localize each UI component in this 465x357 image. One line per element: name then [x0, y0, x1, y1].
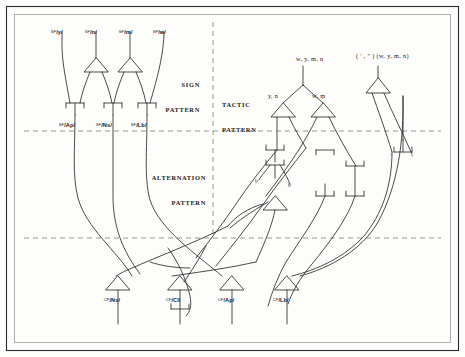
label-sf-ns-body: /Ns/ [101, 122, 112, 128]
and-bracket-mid-c [346, 161, 364, 166]
label-cf-ap: CF/Ap/ [211, 292, 234, 309]
cross-fibre-4 [216, 148, 306, 266]
section-sign-line1: SIGN [152, 81, 200, 89]
cf-cross-2 [184, 246, 206, 282]
label-cf-ns-body: /Ns/ [109, 297, 120, 303]
label-mark-prime: ' [390, 154, 391, 159]
label-sf-lb: SF/Lb/ [124, 117, 147, 134]
cross-fibre-1 [268, 196, 325, 306]
label-sf-y: SF/y/ [44, 24, 63, 41]
and-bracket-sf-ap [66, 103, 84, 115]
or-triangle-m [118, 58, 142, 72]
label-tactic-yn: y, n [268, 93, 278, 99]
label-cf-lb-body: /Lb/ [278, 297, 288, 303]
label-sf-n: SF/n/ [78, 24, 97, 41]
and-bracket-upper-b [316, 150, 334, 155]
or-triangle-yn [271, 103, 295, 117]
right-leg-prime [372, 93, 392, 152]
and-bracket-right [394, 140, 412, 152]
tactic-fan-left [283, 85, 303, 103]
label-tactic-wymn: w, y, m, n [296, 56, 323, 62]
right-leg-dprime [384, 93, 412, 154]
leg-m-right [136, 72, 146, 103]
long-fibre-to-lb [300, 96, 403, 276]
cf-triangle-ap [220, 276, 244, 290]
label-sf-ns: SF/Ns/ [89, 117, 112, 134]
or-triangle-right [366, 78, 390, 93]
or-triangle-wm [311, 103, 335, 117]
and-bracket-mid-b [346, 166, 364, 196]
branch-b-left [259, 165, 270, 180]
label-sf-ap-body: /Ap/ [64, 122, 75, 128]
leg-wm-right [329, 117, 356, 166]
and-bracket-sf-ns [104, 103, 122, 115]
label-sf-m: SF/m/ [112, 24, 133, 41]
label-cf-ns: CF/Ns/ [97, 292, 120, 309]
section-tactic-line1: TACTIC [222, 101, 272, 109]
label-sf-ap: SF/Ap/ [52, 117, 75, 134]
section-sign-pattern: SIGN PATTERN [152, 64, 200, 132]
label-sf-lb-body: /Lb/ [136, 122, 146, 128]
cf-triangle-cl [168, 276, 192, 290]
and-bracket-mid-a [316, 184, 334, 196]
label-mark-b-left: b [255, 179, 258, 184]
section-tactic-line2: PATTERN [222, 126, 272, 134]
cross-fibre-2 [288, 196, 355, 304]
label-sf-m-body: /m/ [124, 29, 132, 35]
leg-wm-left [300, 117, 317, 148]
cf-cross-3 [150, 262, 190, 268]
long-fibre-to-ap [292, 152, 392, 276]
cf-triangle-ns [106, 276, 130, 290]
cross-fibre-5 [266, 148, 300, 196]
label-mark-double-prime: " [411, 155, 413, 160]
label-mark-b-right: b [288, 183, 291, 188]
stem-lower-left-down [256, 210, 275, 262]
leg-yn-right [289, 117, 306, 148]
diagram-canvas: SIGN PATTERN ALTERNATION PATTERN TACTIC … [0, 0, 465, 357]
label-cf-ap-body: /Ap/ [223, 297, 234, 303]
or-triangle-n [84, 58, 108, 72]
label-tactic-wm: w, m [312, 93, 325, 99]
stem-sf-y [62, 32, 70, 103]
label-tactic-primes: ( ' , " ) (w, y, m, n) [356, 53, 409, 59]
label-cf-cl: CF/Cl/ [159, 292, 181, 309]
leg-n-right [102, 72, 112, 103]
label-sf-w-body: /w/ [158, 29, 166, 35]
label-sf-n-body: /n/ [90, 29, 97, 35]
section-alternation-line1: ALTERNATION [110, 174, 206, 182]
section-tactic-pattern: TACTIC PATTERN [222, 84, 272, 152]
section-alternation-line2: PATTERN [110, 199, 206, 207]
leg-n-left [80, 72, 90, 103]
section-sign-line2: PATTERN [152, 106, 200, 114]
leg-m-left [114, 72, 124, 103]
section-alternation-pattern: ALTERNATION PATTERN [110, 157, 206, 225]
feed-lower-left [228, 204, 263, 226]
label-sf-w: SF/w/ [146, 24, 166, 41]
label-cf-cl-body: /Cl/ [171, 297, 180, 303]
label-sf-y-body: /y/ [56, 29, 63, 35]
label-cf-lb: CF/Lb/ [266, 292, 289, 309]
